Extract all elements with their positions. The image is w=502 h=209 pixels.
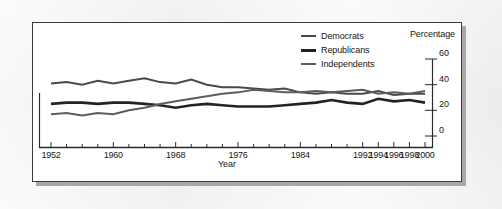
y-axis-title: Percentage (410, 29, 455, 39)
series-line-republicans (51, 99, 425, 108)
legend-swatch-democrats (301, 35, 316, 37)
y-tick-label: 40 (439, 74, 457, 84)
y-tick-label: 20 (439, 99, 457, 109)
legend-swatch-republicans (301, 49, 316, 52)
legend-swatch-independents (301, 63, 316, 65)
x-tick-label: 1976 (223, 150, 253, 160)
x-tick-label: 1984 (285, 150, 315, 160)
y-tick-label: 0 (439, 125, 457, 135)
legend-item-independents[interactable]: Independents (301, 59, 374, 69)
legend-item-democrats[interactable]: Democrats (301, 31, 364, 41)
x-tick-label: 1960 (98, 150, 128, 160)
legend-label-democrats: Democrats (321, 31, 364, 41)
series-group (51, 78, 425, 115)
legend-item-republicans[interactable]: Republicans (301, 45, 369, 55)
x-axis-title: Year (218, 159, 236, 169)
x-tick-label: 2000 (410, 150, 440, 160)
chart-panel: Democrats Republicans Independents Perce… (32, 22, 462, 182)
x-tick-label: 1968 (161, 150, 191, 160)
legend-label-independents: Independents (321, 59, 374, 69)
legend-label-republicans: Republicans (321, 45, 369, 55)
y-tick-label: 60 (439, 48, 457, 58)
figure-container: Democrats Republicans Independents Perce… (0, 0, 502, 209)
x-tick-label: 1952 (36, 150, 66, 160)
